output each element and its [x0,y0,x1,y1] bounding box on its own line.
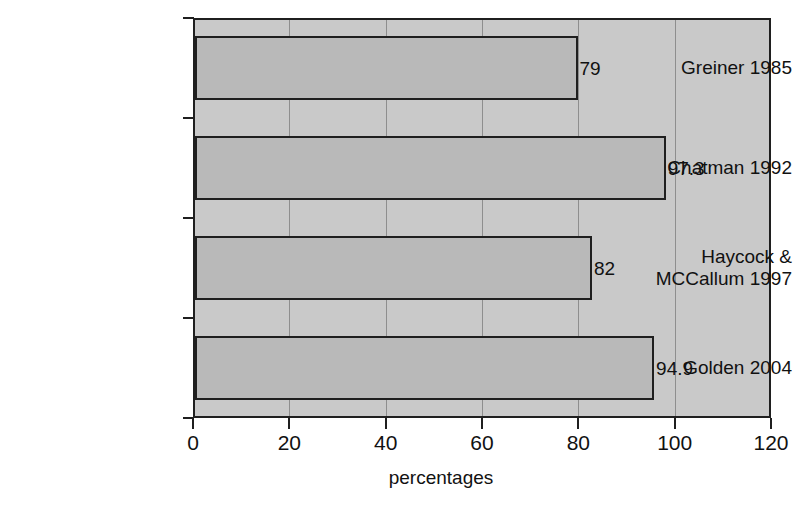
category-label: Haycock & MCCallum 1997 [617,246,802,290]
x-axis-tick [385,418,387,429]
y-axis-tick [183,217,194,219]
x-axis-tick-label: 80 [567,432,590,453]
x-axis-tick [288,418,290,429]
x-axis-tick-label: 120 [753,432,788,453]
category-label: Greiner 1985 [617,57,802,79]
bar-value-label: 82 [594,259,615,278]
y-axis-tick [183,17,194,19]
category-label: Chatman 1992 [617,157,802,179]
x-axis-tick-label: 60 [470,432,493,453]
x-axis-tick [674,418,676,429]
y-axis-tick [183,317,194,319]
bar [195,236,592,300]
x-axis-title: percentages [0,468,802,487]
x-axis-tick [577,418,579,429]
x-axis-tick-label: 0 [187,432,199,453]
bar [195,336,654,400]
x-axis-tick [481,418,483,429]
x-axis-tick-label: 40 [374,432,397,453]
bar [195,136,666,200]
y-axis-tick [183,117,194,119]
category-label: Golden 2004 [617,357,802,379]
x-axis-tick [770,418,772,429]
x-axis-tick-label: 100 [657,432,692,453]
bar [195,36,578,100]
bar-value-label: 79 [580,59,601,78]
bar-chart: 7997.38294.9 Greiner 1985Chatman 1992Hay… [0,0,802,507]
x-axis-tick [192,418,194,429]
x-axis-title-text: percentages [389,468,494,487]
x-axis-tick-label: 20 [278,432,301,453]
